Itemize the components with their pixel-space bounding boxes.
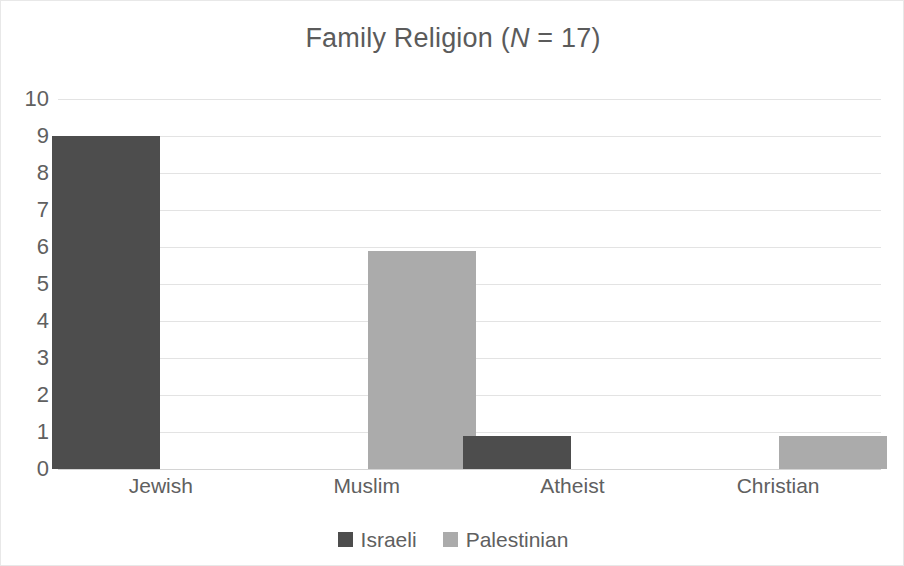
x-axis-tick-label-jewish: Jewish (58, 475, 264, 496)
legend-label: Palestinian (466, 529, 569, 550)
chart-title-suffix: = 17) (530, 23, 601, 53)
y-axis-tick-label-9: 9 (5, 125, 49, 147)
legend-item-israeli[interactable]: Israeli (338, 529, 417, 550)
x-axis: JewishMuslimAtheistChristian (58, 475, 881, 509)
bar[interactable] (463, 436, 571, 469)
legend-item-palestinian[interactable]: Palestinian (443, 529, 569, 550)
gridline-0 (58, 469, 881, 470)
x-axis-tick-label-atheist: Atheist (470, 475, 676, 496)
bar-group (58, 99, 264, 469)
bar-group (264, 99, 470, 469)
y-axis-tick-label-6: 6 (5, 236, 49, 258)
chart-legend: IsraeliPalestinian (1, 529, 904, 550)
bars-layer (58, 99, 881, 469)
bar[interactable] (779, 436, 887, 469)
y-axis-tick-label-8: 8 (5, 162, 49, 184)
y-axis-tick-label-4: 4 (5, 310, 49, 332)
y-axis-tick-label-7: 7 (5, 199, 49, 221)
y-axis-tick-label-5: 5 (5, 273, 49, 295)
y-axis-tick-label-0: 0 (5, 458, 49, 480)
legend-swatch-icon (443, 532, 458, 547)
chart-title: Family Religion (N = 17) (1, 23, 904, 54)
y-axis: 109876543210 (1, 99, 49, 469)
y-axis-tick-label-3: 3 (5, 347, 49, 369)
chart-title-italic-n: N (510, 23, 530, 53)
y-axis-tick-label-10: 10 (5, 88, 49, 110)
legend-label: Israeli (361, 529, 417, 550)
legend-swatch-icon (338, 532, 353, 547)
bar[interactable] (52, 136, 160, 469)
bar-group (470, 99, 676, 469)
bar-group (675, 99, 881, 469)
chart-container: Family Religion (N = 17) 109876543210 Je… (0, 0, 904, 566)
bar[interactable] (368, 251, 476, 469)
x-axis-tick-label-christian: Christian (675, 475, 881, 496)
x-axis-tick-label-muslim: Muslim (264, 475, 470, 496)
y-axis-tick-label-1: 1 (5, 421, 49, 443)
y-axis-tick-label-2: 2 (5, 384, 49, 406)
chart-title-prefix: Family Religion ( (305, 23, 509, 53)
